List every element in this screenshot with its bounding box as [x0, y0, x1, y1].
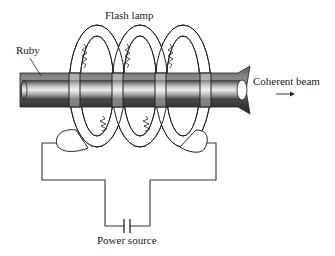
circuit-wires: [42, 143, 216, 226]
diagram-canvas: [0, 0, 335, 256]
ruby-label: Ruby: [16, 45, 40, 56]
ruby-rod: [20, 66, 250, 114]
flash-lamp-label: Flash lamp: [105, 10, 154, 21]
capacitor-icon: [124, 219, 130, 233]
beam-arrow-icon: [276, 92, 295, 97]
coherent-beam-label: Coherent beam: [253, 76, 320, 87]
power-source-label: Power source: [97, 235, 157, 246]
laser-diagram: Flash lamp Ruby Coherent beam Power sour…: [0, 0, 335, 256]
